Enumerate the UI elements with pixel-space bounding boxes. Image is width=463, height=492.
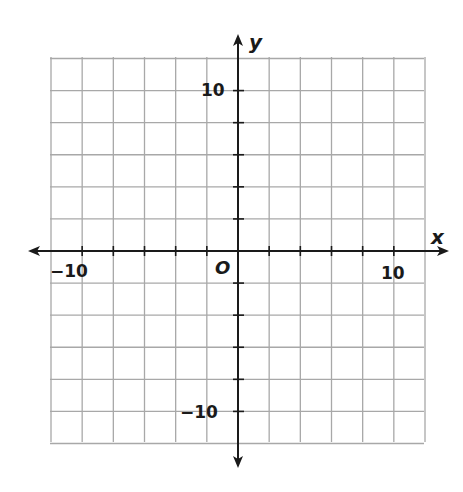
x-axis-label: x xyxy=(430,225,445,249)
y-axis-label: y xyxy=(249,30,263,54)
x-tick-label-neg10: −10 xyxy=(50,261,88,281)
y-tick-label-10: 10 xyxy=(201,80,225,100)
axes xyxy=(28,34,449,468)
labels: y x O −10 10 10 −10 xyxy=(50,30,445,422)
coordinate-plane: y x O −10 10 10 −10 xyxy=(0,0,463,492)
origin-label: O xyxy=(215,257,230,278)
y-tick-label-neg10: −10 xyxy=(180,402,218,422)
x-tick-label-10: 10 xyxy=(381,263,405,283)
